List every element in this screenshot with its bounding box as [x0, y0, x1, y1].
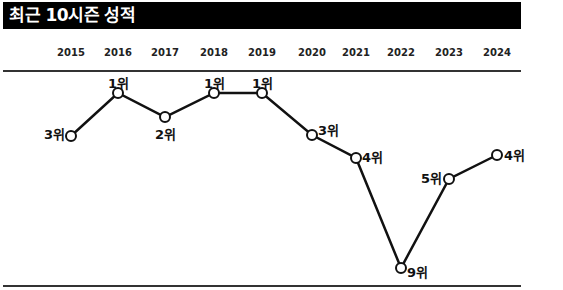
- rank-label-2021: 4위: [362, 147, 383, 166]
- data-point-2015: [66, 131, 76, 141]
- rank-label-2016: 1위: [108, 73, 129, 92]
- rank-label-2024: 4위: [504, 145, 525, 164]
- rank-label-2018: 1위: [204, 73, 225, 92]
- bottom-divider: [3, 285, 521, 287]
- rank-label-2022: 9위: [407, 262, 428, 281]
- data-point-2020: [307, 130, 317, 140]
- data-point-2021: [351, 153, 361, 163]
- rank-label-2015: 3위: [44, 124, 65, 143]
- rank-label-2017: 2위: [155, 124, 176, 143]
- data-point-2024: [492, 150, 502, 160]
- rank-label-2019: 1위: [252, 73, 273, 92]
- rank-label-2020: 3위: [318, 120, 339, 139]
- data-point-2017: [160, 112, 170, 122]
- data-point-2023: [444, 174, 454, 184]
- line-plot: [0, 0, 563, 290]
- data-point-2022: [396, 263, 406, 273]
- rank-label-2023: 5위: [421, 168, 442, 187]
